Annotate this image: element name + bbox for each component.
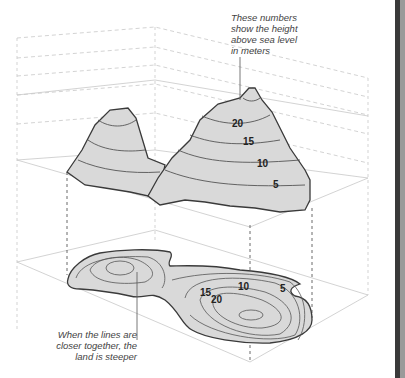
page-edge-shadow (400, 0, 405, 378)
annotation-line: above sea level (231, 34, 311, 45)
height-label-20: 20 (232, 118, 244, 129)
map-label-10: 10 (238, 281, 250, 292)
height-annotation: These numbers show the height above sea … (231, 12, 311, 56)
annotation-line: show the height (231, 23, 311, 34)
right-hill (148, 88, 310, 212)
map-label-5: 5 (280, 283, 286, 294)
height-label-10: 10 (257, 158, 269, 169)
map-label-15: 15 (200, 287, 212, 298)
annotation-line: When the lines are (42, 329, 137, 340)
annotation-line: These numbers (231, 12, 311, 23)
height-label-5: 5 (273, 179, 279, 190)
height-label-15: 15 (243, 136, 255, 147)
diagram-canvas: 20 15 10 5 15 20 10 5 (0, 0, 405, 378)
contour-diagram: 20 15 10 5 15 20 10 5 (0, 0, 405, 378)
annotation-line: in meters (231, 45, 311, 56)
map-label-20: 20 (211, 294, 223, 305)
annotation-line: closer together, the (42, 340, 137, 351)
annotation-line: land is steeper (42, 351, 137, 362)
steepness-annotation: When the lines are closer together, the … (42, 329, 137, 362)
left-hill (67, 108, 165, 196)
